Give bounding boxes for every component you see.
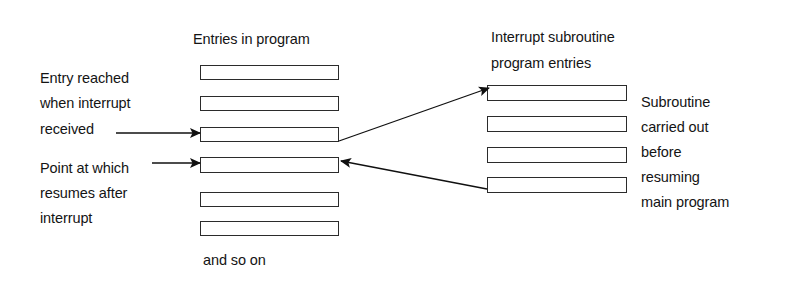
entry-reached-label-line1: Entry reached bbox=[40, 66, 129, 90]
subroutine-note-line3: before bbox=[641, 140, 682, 164]
subroutine-note-line5: main program bbox=[641, 190, 729, 214]
program-entry-6 bbox=[200, 221, 339, 236]
entry3-to-subroutine1-arrow bbox=[339, 88, 489, 141]
subroutine-note-line1: Subroutine bbox=[641, 90, 710, 114]
resume-point-label-line1: Point at which bbox=[40, 156, 129, 180]
and-so-on-note: and so on bbox=[203, 248, 266, 272]
resume-point-label-line3: interrupt bbox=[40, 206, 92, 230]
subroutine-entry-4 bbox=[487, 177, 627, 193]
subroutine-entry-1 bbox=[487, 85, 627, 101]
interrupt-subroutine-diagram: Entries in program Interrupt subroutine … bbox=[0, 0, 800, 284]
entry-reached-label-line3: received bbox=[40, 117, 94, 141]
program-entry-1 bbox=[200, 65, 339, 80]
entry-reached-label-line2: when interrupt bbox=[40, 91, 131, 115]
subroutine-column-title-line2: program entries bbox=[491, 50, 591, 76]
main-program-column-title: Entries in program bbox=[193, 26, 310, 52]
program-entry-5 bbox=[200, 192, 339, 207]
subroutine-entry-2 bbox=[487, 116, 627, 132]
resume-point-label-line2: resumes after bbox=[40, 181, 127, 205]
program-entry-2 bbox=[200, 96, 339, 111]
subroutine4-to-entry4-arrow bbox=[341, 161, 487, 189]
subroutine-note-line4: resuming bbox=[641, 165, 700, 189]
subroutine-column-title-line1: Interrupt subroutine bbox=[491, 24, 615, 50]
program-entry-3 bbox=[200, 127, 339, 142]
subroutine-note-line2: carried out bbox=[641, 115, 708, 139]
program-entry-4 bbox=[200, 157, 339, 173]
subroutine-entry-3 bbox=[487, 147, 627, 163]
